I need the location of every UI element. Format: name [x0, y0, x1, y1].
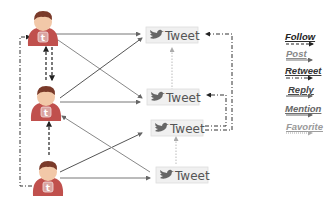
twitter-user-icon	[28, 11, 58, 46]
legend: Follow Post Retweet Reply Mention Favori…	[285, 31, 324, 133]
tweet-node-1[interactable]: Tweet	[146, 27, 200, 43]
legend-label-mention: Mention	[285, 103, 322, 114]
legend-item-favorite: Favorite	[286, 121, 324, 133]
legend-item-retweet: Retweet	[285, 65, 322, 78]
tweet-label: Tweet	[169, 122, 205, 136]
tweet-node-2[interactable]: Tweet	[147, 89, 201, 105]
tweet-label: Tweet	[165, 91, 201, 105]
tweet-label: Tweet	[174, 169, 210, 183]
legend-item-post: Post	[286, 48, 312, 60]
edge-tweet4-user2	[62, 116, 150, 172]
legend-label-follow: Follow	[285, 31, 316, 42]
edge-retweet-tweet3-tweet1	[205, 34, 232, 130]
legend-label-retweet: Retweet	[285, 65, 322, 76]
tweet-label: Tweet	[164, 29, 200, 43]
tweet-node-4[interactable]: Tweet	[156, 167, 210, 183]
user-node-1[interactable]	[28, 11, 58, 46]
twitter-user-icon	[33, 161, 63, 196]
edge-user3-tweet3	[60, 133, 142, 172]
legend-item-reply: Reply	[286, 84, 315, 96]
edge-retweet-tweet3-tweet2	[205, 95, 226, 126]
tweet-node-3[interactable]: Tweet	[151, 120, 205, 136]
legend-label-reply: Reply	[288, 84, 315, 95]
interaction-diagram: t Tweet Tweet	[0, 0, 328, 201]
legend-label-post: Post	[286, 48, 307, 59]
user-node-3[interactable]	[33, 161, 63, 196]
legend-label-favorite: Favorite	[286, 121, 324, 132]
user-node-2[interactable]	[31, 86, 61, 121]
twitter-user-icon	[31, 86, 61, 121]
legend-item-mention: Mention	[285, 103, 322, 115]
edge-retweet-user3-user1	[20, 37, 32, 186]
legend-item-follow: Follow	[285, 31, 316, 44]
